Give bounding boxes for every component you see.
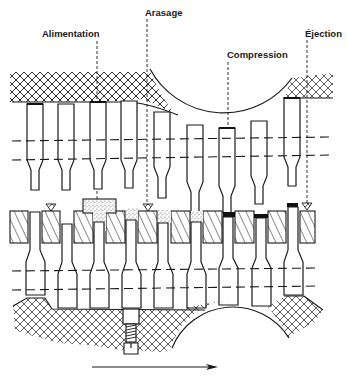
label-arasage: Arasage (145, 7, 183, 18)
label-compression: Compression (227, 49, 288, 60)
feed-powder (83, 199, 116, 213)
tablet (223, 212, 235, 217)
label-ejection: Éjection (305, 28, 342, 39)
rotation-direction-arrow (92, 364, 218, 370)
tablet-press-diagram: Alimentation Arasage Compression Éjectio… (0, 0, 347, 377)
upper-compression-roller (150, 69, 292, 113)
upper-punches (27, 98, 300, 213)
label-alimentation: Alimentation (42, 28, 100, 39)
